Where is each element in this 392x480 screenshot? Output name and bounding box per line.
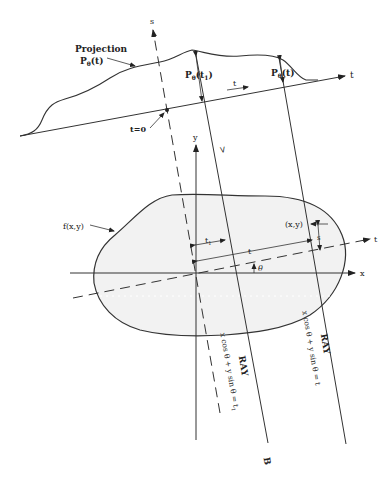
object-label: f(x,y) xyxy=(63,222,84,231)
projection-function: Pθ(t) xyxy=(80,56,103,67)
ray1-label: RAY xyxy=(237,355,250,377)
ray2-equation: x cos θ + y sin θ = t xyxy=(300,310,322,386)
origin-dot xyxy=(165,108,169,112)
ray1-equation: x cos θ + y sin θ = t1 xyxy=(217,332,241,412)
t-axis-object-label: t xyxy=(374,235,378,244)
t-axis-top-label: t xyxy=(350,70,354,80)
ray-end-label-b: B xyxy=(262,456,273,466)
p-theta-t-label: Pθ(t) xyxy=(271,68,294,79)
theta-label: θ xyxy=(258,264,263,273)
s-dimension-label: s xyxy=(317,234,321,242)
p-theta-t1-label: Pθ(t1) xyxy=(185,70,213,81)
ray2-label: RAY xyxy=(319,333,332,355)
x-axis-label: x xyxy=(360,269,365,278)
t-direction-label: t xyxy=(233,79,237,88)
s-axis-label: s xyxy=(150,17,154,26)
projection-title: Projection xyxy=(75,44,128,54)
t-axis-projection xyxy=(20,76,345,136)
point-label: (x,y) xyxy=(285,220,303,229)
ray-direction-marker: > xyxy=(217,145,228,154)
t-zero-label: t=0 xyxy=(130,124,146,134)
y-axis-label: y xyxy=(192,133,198,142)
projection-diagram: s t Projection Pθ(t) Pθ(t1) Pθ(t) t t=0 … xyxy=(0,0,392,480)
